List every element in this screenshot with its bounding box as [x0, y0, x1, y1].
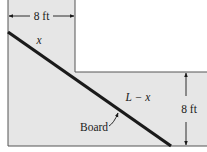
right-height-label: 8 ft	[181, 103, 197, 115]
upper-segment-label: x	[35, 34, 42, 46]
lower-segment-label: L − x	[125, 91, 152, 103]
corridor-diagram: 8 ft 8 ft x L − x Board	[0, 0, 207, 152]
top-width-label: 8 ft	[34, 10, 50, 22]
board-label: Board	[80, 121, 108, 133]
